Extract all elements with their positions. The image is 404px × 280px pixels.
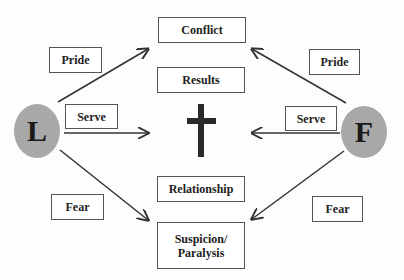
fear-right-box: Fear (312, 196, 363, 222)
relationship-label: Relationship (169, 182, 234, 196)
paralysis-label: Paralysis (178, 246, 225, 260)
relationship-box: Relationship (157, 176, 245, 202)
left-circle-l: L (14, 104, 60, 158)
suspicion-paralysis-box: Suspicion/ Paralysis (157, 222, 245, 269)
pride-right-box: Pride (309, 49, 360, 75)
serve-left-label: Serve (77, 110, 106, 124)
suspicion-label: Suspicion/ (175, 232, 228, 246)
results-box: Results (157, 67, 245, 93)
results-label: Results (182, 73, 219, 87)
fear-right-label: Fear (326, 202, 350, 216)
fear-left-box: Fear (51, 194, 104, 220)
left-circle-label: L (27, 114, 47, 148)
serve-right-label: Serve (297, 112, 326, 126)
pride-left-box: Pride (49, 47, 102, 73)
pride-right-label: Pride (321, 55, 349, 69)
fear-left-label: Fear (66, 200, 90, 214)
conflict-label: Conflict (181, 23, 222, 37)
right-circle-label: F (355, 115, 373, 149)
serve-left-box: Serve (65, 104, 118, 129)
pride-left-label: Pride (62, 53, 90, 67)
conflict-box: Conflict (158, 17, 246, 43)
serve-right-box: Serve (285, 106, 337, 131)
right-circle-f: F (341, 106, 387, 158)
